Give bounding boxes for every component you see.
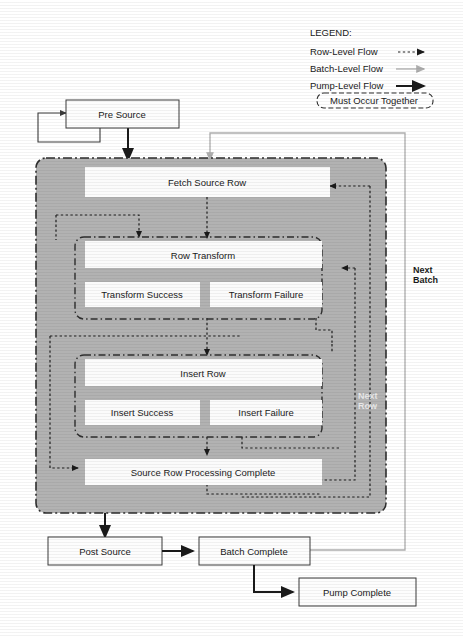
- diagram-canvas: LEGEND: Row-Level Flow Batch-Level Flow …: [0, 0, 463, 636]
- legend-label-must-occur-together: Must Occur Together: [330, 95, 418, 106]
- node-label-transform-failure: Transform Failure: [229, 289, 304, 300]
- node-row-transform[interactable]: Row Transform: [85, 241, 322, 268]
- edge-label-next-row: Next Row: [358, 391, 378, 411]
- node-fetch-source-row[interactable]: Fetch Source Row: [85, 167, 330, 197]
- node-transform-failure[interactable]: Transform Failure: [210, 282, 322, 307]
- next-batch-line-2: Batch: [413, 275, 438, 285]
- legend-label-batch-level-flow: Batch-Level Flow: [310, 63, 383, 74]
- legend-label-pump-level-flow: Pump-Level Flow: [310, 80, 384, 91]
- next-row-line-2: Row: [358, 401, 378, 411]
- node-label-insert-success: Insert Success: [111, 407, 174, 418]
- legend-heading: LEGEND:: [310, 27, 352, 38]
- node-batch-complete[interactable]: Batch Complete: [199, 537, 310, 565]
- edge-label-next-batch: Next Batch: [413, 265, 438, 285]
- node-label-fetch-source-row: Fetch Source Row: [168, 177, 246, 188]
- legend-label-row-level-flow: Row-Level Flow: [310, 46, 378, 57]
- node-insert-success[interactable]: Insert Success: [85, 400, 200, 425]
- node-label-pre-source: Pre Source: [98, 109, 146, 120]
- next-row-line-1: Next: [358, 391, 378, 401]
- node-insert-failure[interactable]: Insert Failure: [210, 400, 322, 425]
- node-label-source-row-processing-complete: Source Row Processing Complete: [131, 467, 276, 478]
- node-label-batch-complete: Batch Complete: [220, 546, 288, 557]
- flow-diagram-svg: LEGEND: Row-Level Flow Batch-Level Flow …: [0, 0, 463, 636]
- next-batch-line-1: Next: [413, 265, 433, 275]
- node-label-insert-row: Insert Row: [180, 368, 226, 379]
- node-label-row-transform: Row Transform: [171, 250, 235, 261]
- node-label-insert-failure: Insert Failure: [238, 407, 293, 418]
- legend-swatch-must-occur-together: Must Occur Together: [317, 93, 433, 108]
- node-label-pump-complete: Pump Complete: [323, 587, 391, 598]
- node-pump-complete[interactable]: Pump Complete: [299, 578, 416, 606]
- node-source-row-processing-complete[interactable]: Source Row Processing Complete: [85, 459, 322, 485]
- node-label-transform-success: Transform Success: [101, 289, 183, 300]
- node-insert-row[interactable]: Insert Row: [85, 359, 322, 386]
- legend: LEGEND: Row-Level Flow Batch-Level Flow …: [310, 27, 433, 108]
- node-transform-success[interactable]: Transform Success: [85, 282, 200, 307]
- node-pre-source[interactable]: Pre Source: [66, 100, 179, 128]
- edge-batch-complete-to-pump-complete: [254, 565, 293, 592]
- node-post-source[interactable]: Post Source: [48, 537, 162, 565]
- node-label-post-source: Post Source: [79, 546, 131, 557]
